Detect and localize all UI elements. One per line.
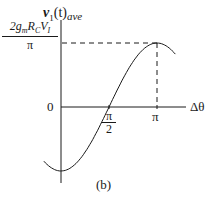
x-axis-label: Δθ: [190, 100, 205, 113]
y-tick-zero-label: 0: [47, 100, 54, 113]
y-label-ave: ave: [67, 10, 82, 22]
peak-num-v: V: [40, 19, 47, 33]
peak-num-2g: 2g: [10, 19, 22, 33]
peak-denominator: π: [2, 37, 58, 51]
half-pi-denominator: 2: [102, 123, 116, 135]
y-tick-peak-label: 2gmRCVI π: [2, 20, 58, 51]
y-label-arg: (t): [54, 5, 67, 20]
peak-num-i: I: [48, 26, 51, 35]
figure-caption: (b): [96, 178, 111, 191]
x-tick-pi-label: π: [152, 110, 159, 123]
peak-num-r: R: [28, 19, 35, 33]
x-tick-half-pi-label: π 2: [102, 110, 116, 135]
peak-numerator: 2gmRCVI: [2, 20, 58, 37]
